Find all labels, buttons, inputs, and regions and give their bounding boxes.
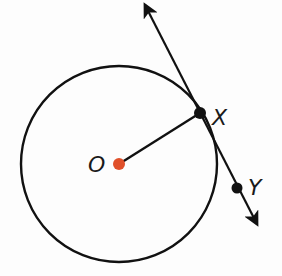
label-y: Y bbox=[248, 175, 263, 200]
point-y bbox=[232, 183, 243, 194]
label-o: O bbox=[88, 152, 105, 177]
center-point-o bbox=[113, 158, 125, 170]
label-x: X bbox=[211, 105, 228, 130]
radius-ox bbox=[119, 113, 200, 164]
point-x bbox=[194, 107, 206, 119]
geometry-diagram: O X Y bbox=[0, 0, 282, 276]
diagram-canvas: O X Y bbox=[0, 0, 282, 276]
